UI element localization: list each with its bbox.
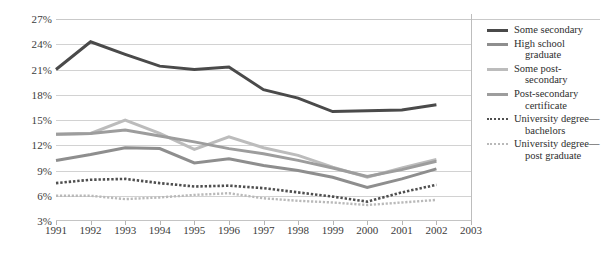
legend-label-line2: certificate: [514, 100, 606, 112]
legend-label-line2: post graduate: [514, 150, 606, 162]
legend-label-line1: Some post-: [514, 63, 562, 74]
x-axis-tick-label: 1991: [45, 225, 67, 236]
y-axis-tick-label: 21%: [6, 65, 52, 76]
series-line: [56, 148, 436, 188]
legend-label-line1: Post-secondary: [514, 88, 578, 99]
x-axis-tick-label: 2001: [391, 225, 413, 236]
x-axis-tick-label: 2000: [356, 225, 378, 236]
legend-swatch-icon: [487, 118, 508, 120]
series-lines: [56, 19, 471, 221]
x-axis-tick-label: 1993: [114, 225, 136, 236]
x-axis-tick-label: 1999: [322, 225, 344, 236]
x-axis-tick-label: 1996: [218, 225, 240, 236]
legend-label-line2: graduate: [514, 49, 606, 61]
legend-label: University degree—bachelors: [514, 113, 606, 136]
legend-swatch-icon: [487, 93, 508, 96]
legend-label-line2: bachelors: [514, 125, 606, 137]
legend-item[interactable]: High schoolgraduate: [487, 38, 606, 61]
legend-item[interactable]: Some post-secondary: [487, 63, 606, 86]
legend-swatch-icon: [487, 43, 508, 46]
legend-label: High schoolgraduate: [514, 38, 606, 61]
legend-item[interactable]: Post-secondarycertificate: [487, 88, 606, 111]
y-axis-tick-label: 27%: [6, 14, 52, 25]
y-axis-tick-label: 6%: [6, 191, 52, 202]
legend-label: Post-secondarycertificate: [514, 88, 606, 111]
legend-label: Some secondary: [514, 24, 606, 36]
x-axis-tick-label: 1997: [253, 225, 275, 236]
legend-item[interactable]: University degree—bachelors: [487, 113, 606, 136]
legend-divider: [471, 14, 472, 221]
chart-legend: Some secondaryHigh schoolgraduateSome po…: [487, 24, 606, 164]
x-axis-tick-label: 1994: [149, 225, 171, 236]
x-axis-tick-label: 2002: [425, 225, 447, 236]
legend-swatch-icon: [487, 68, 508, 71]
legend-label-line1: Some secondary: [514, 24, 583, 35]
y-axis-tick-label: 9%: [6, 166, 52, 177]
legend-label: University degree—post graduate: [514, 138, 606, 161]
legend-label-line2: secondary: [514, 74, 606, 86]
x-axis-tick-label: 1998: [287, 225, 309, 236]
legend-label-line1: University degree—: [514, 113, 599, 124]
legend-item[interactable]: Some secondary: [487, 24, 606, 36]
y-axis-tick-label: 15%: [6, 115, 52, 126]
x-axis-tick-label: 1992: [80, 225, 102, 236]
chart-figure: 27%24%21%18%15%12%9%6%3% 199119921993199…: [0, 0, 606, 254]
series-line: [56, 42, 436, 112]
legend-label: Some post-secondary: [514, 63, 606, 86]
y-axis-tick-label: 18%: [6, 90, 52, 101]
y-axis-tick-label: 12%: [6, 140, 52, 151]
legend-swatch-icon: [487, 143, 508, 145]
legend-swatch-icon: [487, 29, 508, 32]
legend-item[interactable]: University degree—post graduate: [487, 138, 606, 161]
x-axis-tick-label: 1995: [183, 225, 205, 236]
plot-area: [56, 19, 471, 221]
series-line: [56, 130, 436, 176]
legend-label-line1: University degree—: [514, 138, 599, 149]
x-axis-labels: 1991199219931994199519961997199819992000…: [56, 225, 606, 245]
y-axis-labels: 27%24%21%18%15%12%9%6%3%: [0, 0, 52, 254]
y-axis-tick-label: 24%: [6, 39, 52, 50]
x-axis-tick-label: 2003: [460, 225, 482, 236]
legend-label-line1: High school: [514, 38, 565, 49]
